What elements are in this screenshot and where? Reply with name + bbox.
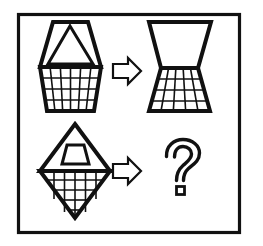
shape-bottom-left: [40, 124, 110, 218]
bottom-left-inner-trapezoid: [62, 145, 89, 164]
top-left-inner-triangle: [48, 26, 93, 64]
outer-frame: [19, 15, 240, 233]
shape-top-right: [149, 22, 211, 111]
arrow-right-bottom-outline: [113, 158, 141, 184]
top-right-upper-trapezoid: [149, 22, 211, 68]
arrow-right-top-outline: [113, 58, 141, 84]
top-left-grid: [42, 68, 100, 110]
arrow-right-top: [113, 58, 141, 84]
answer-placeholder: [166, 140, 199, 195]
shape-top-left: [40, 22, 101, 111]
arrow-right-bottom: [113, 158, 141, 184]
puzzle-canvas: [0, 0, 263, 246]
puzzle-figure: Visual analogy puzzle Two-row geometric …: [0, 0, 263, 246]
question-mark-dot: [177, 187, 185, 195]
